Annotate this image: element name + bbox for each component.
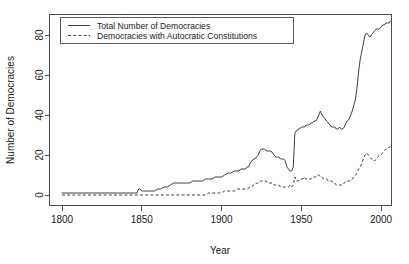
chart-figure: 18001850190019502000 020406080 Year Numb…	[0, 0, 409, 264]
y-axis-title: Number of Democracies	[5, 56, 16, 164]
x-tick-label-1850: 1850	[131, 214, 154, 225]
x-axis-ticks	[62, 206, 381, 211]
y-tick-label-0: 0	[34, 192, 45, 198]
y-axis-ticks	[45, 35, 50, 195]
legend-label-total: Total Number of Democracies	[97, 21, 210, 31]
legend-label-autocratic: Democracies with Autocratic Constitution…	[97, 31, 257, 41]
x-tick-label-1950: 1950	[290, 214, 313, 225]
x-tick-label-1900: 1900	[210, 214, 233, 225]
x-tick-label-1800: 1800	[51, 214, 74, 225]
y-tick-label-80: 80	[34, 29, 45, 41]
series-democracies-with-autocratic-constitutions	[62, 147, 391, 195]
x-tick-label-2000: 2000	[370, 214, 393, 225]
data-series-group	[62, 21, 391, 195]
series-total-number-of-democracies	[62, 21, 391, 193]
y-axis-tick-labels: 020406080	[34, 29, 45, 198]
y-tick-label-60: 60	[34, 69, 45, 81]
x-axis-title: Year	[210, 245, 231, 256]
x-axis-tick-labels: 18001850190019502000	[51, 214, 393, 225]
y-tick-label-40: 40	[34, 109, 45, 121]
y-tick-label-20: 20	[34, 149, 45, 161]
chart-legend: Total Number of Democracies Democracies …	[61, 18, 294, 44]
line-chart: 18001850190019502000 020406080 Year Numb…	[0, 0, 409, 264]
